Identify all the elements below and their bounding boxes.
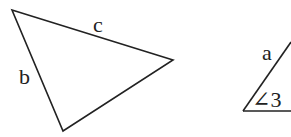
label-side-c: c [93, 12, 103, 37]
label-side-b: b [19, 64, 30, 89]
geometry-diagram: c b a ∠3 [0, 0, 291, 137]
label-angle-3: ∠3 [252, 87, 281, 112]
label-side-a: a [262, 40, 272, 65]
